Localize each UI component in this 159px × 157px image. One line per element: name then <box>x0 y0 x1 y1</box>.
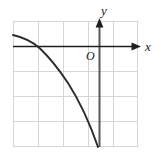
graph-figure: y x O <box>0 0 159 157</box>
grid-background <box>13 21 138 147</box>
coordinate-plane-graphic <box>0 0 159 157</box>
origin-label: O <box>86 50 95 62</box>
y-axis-label: y <box>101 4 107 17</box>
x-axis-label: x <box>145 40 151 53</box>
